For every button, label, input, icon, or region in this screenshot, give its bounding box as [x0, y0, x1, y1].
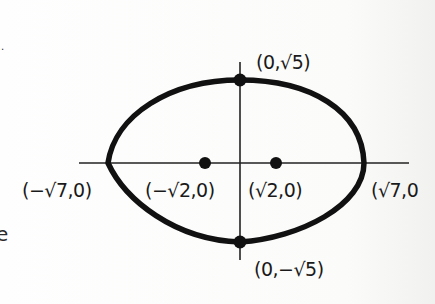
- right-vertex-label: (√7,0: [371, 181, 418, 200]
- ellipse-diagram: (0,√5) (0,−√5) (−√7,0) (√7,0 (−√2,0) (√2…: [0, 0, 435, 304]
- bottom-covertex-point: [234, 236, 247, 249]
- left-focus-label: (−√2,0): [145, 181, 215, 200]
- right-focus-point: [270, 157, 282, 169]
- ellipse-curve: [108, 80, 364, 242]
- right-focus-label: (√2,0): [248, 181, 302, 200]
- bottom-covertex-label: (0,−√5): [254, 260, 324, 279]
- left-vertex-label: (−√7,0): [22, 181, 92, 200]
- ellipse-figure: [0, 0, 435, 304]
- stray-letter-mark: e: [0, 224, 8, 244]
- top-covertex-point: [234, 74, 247, 87]
- top-covertex-label: (0,√5): [256, 53, 310, 72]
- left-focus-point: [199, 157, 211, 169]
- stray-dot-mark: .: [1, 42, 4, 52]
